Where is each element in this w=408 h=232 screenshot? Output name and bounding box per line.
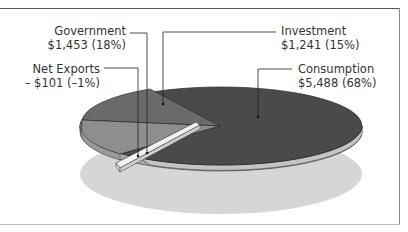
label-investment-name: Investment xyxy=(281,24,359,38)
label-government-value: $1,453 (18%) xyxy=(40,38,126,52)
label-consumption: Consumption $5,488 (68%) xyxy=(298,62,376,90)
label-net-exports: Net Exports – $101 (–1%) xyxy=(10,62,100,90)
label-government: Government $1,453 (18%) xyxy=(40,24,126,52)
label-net-exports-name: Net Exports xyxy=(10,62,100,76)
label-consumption-name: Consumption xyxy=(298,62,376,76)
label-investment-value: $1,241 (15%) xyxy=(281,38,359,52)
label-net-exports-value: – $101 (–1%) xyxy=(10,76,100,90)
label-government-name: Government xyxy=(40,24,126,38)
label-investment: Investment $1,241 (15%) xyxy=(281,24,359,52)
label-consumption-value: $5,488 (68%) xyxy=(298,76,376,90)
